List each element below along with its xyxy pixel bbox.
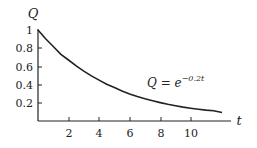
equation-base: Q = e [147, 76, 182, 90]
y-tick-label: 0.6 [16, 61, 34, 74]
y-tick-label: 0.8 [16, 42, 34, 55]
x-tick-label: 2 [66, 127, 73, 140]
x-tick-label: 4 [96, 127, 103, 140]
y-axis-label: Q [28, 6, 39, 21]
x-tick-label: 10 [184, 127, 198, 140]
x-axis-label: t [236, 113, 242, 128]
equation-label: Q = e−0.2t [147, 74, 205, 90]
chart: 0.2 0.4 0.6 0.8 1 2 4 6 8 10 Q t Q = e−0… [0, 0, 257, 148]
x-tick-label: 6 [127, 127, 134, 140]
y-tick-label: 1 [26, 24, 33, 37]
decay-curve [38, 30, 222, 113]
y-tick-label: 0.2 [16, 97, 34, 110]
x-tick-label: 8 [158, 127, 165, 140]
y-tick-label: 0.4 [16, 79, 34, 92]
equation-exponent: −0.2t [182, 74, 205, 83]
